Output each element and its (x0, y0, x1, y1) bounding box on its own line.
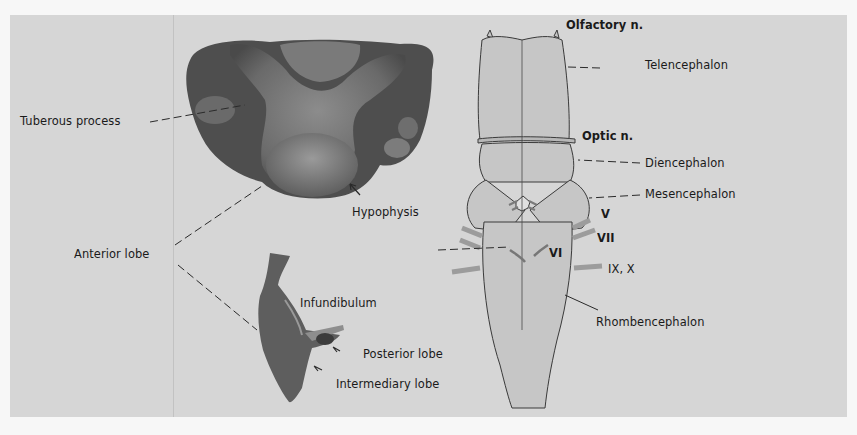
label-posterior-lobe: Posterior lobe (363, 346, 443, 361)
label-intermediary-lobe: Intermediary lobe (336, 376, 439, 391)
label-tuberous-process: Tuberous process (20, 113, 120, 128)
label-nerve-vii: VII (597, 230, 615, 245)
label-anterior-lobe: Anterior lobe (74, 246, 149, 261)
hypophysis-ventral-specimen (186, 40, 433, 199)
hypophysis-sagittal-specimen (258, 253, 344, 402)
label-hypophysis: Hypophysis (352, 204, 419, 219)
label-nerve-ix-x: IX, X (608, 261, 635, 276)
label-optic-n: Optic n. (582, 128, 633, 143)
label-telencephalon: Telencephalon (645, 57, 728, 72)
label-diencephalon: Diencephalon (645, 155, 725, 170)
label-nerve-v: V (601, 206, 610, 221)
label-nerve-vi: VI (549, 245, 562, 260)
label-rhombencephalon: Rhombencephalon (596, 314, 705, 329)
brain-drawing (452, 30, 602, 408)
label-olfactory-n: Olfactory n. (566, 17, 643, 32)
diagram-artwork (0, 0, 857, 435)
label-mesencephalon: Mesencephalon (645, 186, 736, 201)
label-infundibulum: Infundibulum (300, 295, 377, 310)
